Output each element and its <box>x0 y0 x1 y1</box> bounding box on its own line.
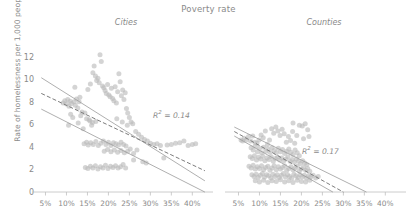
y-tick-label: 2 <box>29 165 34 174</box>
data-point <box>77 95 82 100</box>
data-point <box>173 141 178 146</box>
data-point <box>274 150 279 155</box>
data-point <box>130 121 135 126</box>
x-tick-label: 10% <box>251 199 267 208</box>
y-tick-label: 8 <box>29 98 34 107</box>
data-point <box>186 143 191 148</box>
x-tick-label: 5% <box>233 199 245 208</box>
data-point <box>114 116 119 121</box>
data-point <box>92 63 97 68</box>
data-point <box>88 81 93 86</box>
data-point <box>120 120 125 125</box>
data-point <box>116 71 121 76</box>
data-point <box>165 142 170 147</box>
x-tick-label: 40% <box>377 199 393 208</box>
data-point <box>292 141 297 146</box>
data-point <box>68 112 73 117</box>
data-point <box>282 131 287 136</box>
data-point <box>306 134 311 139</box>
data-point <box>134 148 139 153</box>
data-point <box>299 179 304 184</box>
x-tick-label: 30% <box>142 199 158 208</box>
y-tick-label: 4 <box>29 143 34 152</box>
data-point <box>290 129 295 134</box>
data-point <box>301 136 306 141</box>
y-tick-label: 12 <box>24 53 34 62</box>
data-point <box>76 121 81 126</box>
panel-cities: 5%10%15%20%25%30%35%40% <box>32 52 213 207</box>
fit-line-line <box>41 93 205 170</box>
data-point <box>98 52 103 57</box>
data-point <box>158 143 163 148</box>
data-point <box>113 84 118 89</box>
data-point <box>95 76 100 81</box>
data-point <box>294 133 299 138</box>
data-point <box>307 169 312 174</box>
data-point <box>305 127 310 132</box>
data-point <box>303 121 308 126</box>
data-point <box>99 59 104 64</box>
data-point <box>291 180 296 185</box>
data-point <box>285 154 290 159</box>
data-point <box>123 165 128 170</box>
data-point <box>121 97 126 102</box>
x-tick-label: 5% <box>40 199 52 208</box>
data-point <box>123 90 128 95</box>
chart-root: Poverty rate Cities Counties Rate of hom… <box>0 0 417 222</box>
panel-counties: 5%10%15%20%25%30%35%40% <box>225 121 406 208</box>
data-point <box>295 178 300 183</box>
data-point <box>131 158 136 163</box>
x-tick-label: 15% <box>272 199 288 208</box>
y-tick-label: 6 <box>29 120 34 129</box>
r2-annotation-cities: R2 = 0.14 <box>153 109 190 120</box>
data-point <box>114 100 119 105</box>
data-point <box>127 115 132 120</box>
data-point <box>125 123 130 128</box>
data-point <box>118 79 123 84</box>
x-tick-label: 35% <box>163 199 179 208</box>
data-point <box>267 137 272 142</box>
data-point <box>291 121 296 126</box>
x-tick-label: 25% <box>314 199 330 208</box>
data-point <box>115 89 120 94</box>
data-point <box>125 111 130 116</box>
data-point <box>181 139 186 144</box>
data-point <box>124 106 129 111</box>
x-tick-label: 10% <box>58 199 74 208</box>
data-point <box>280 127 285 132</box>
x-tick-label: 15% <box>79 199 95 208</box>
data-point <box>261 135 266 140</box>
r2-annotation-counties: R2 = 0.17 <box>302 145 339 156</box>
y-tick-label: 10 <box>24 75 34 84</box>
data-point <box>124 144 129 149</box>
x-tick-label: 40% <box>184 199 200 208</box>
data-point <box>128 146 133 151</box>
data-point <box>105 82 110 87</box>
data-point <box>263 128 268 133</box>
data-point <box>193 141 198 146</box>
data-point <box>72 85 77 90</box>
data-point <box>288 138 293 143</box>
data-point <box>85 87 90 92</box>
data-point <box>270 178 275 183</box>
scatter-plot-canvas: 0246810125%10%15%20%25%30%35%40%5%10%15%… <box>0 0 417 222</box>
x-tick-label: 30% <box>335 199 351 208</box>
x-tick-label: 20% <box>293 199 309 208</box>
data-point <box>253 178 258 183</box>
x-tick-label: 35% <box>356 199 372 208</box>
data-point <box>169 142 174 147</box>
x-tick-label: 25% <box>121 199 137 208</box>
data-point <box>282 179 287 184</box>
x-tick-label: 20% <box>100 199 116 208</box>
